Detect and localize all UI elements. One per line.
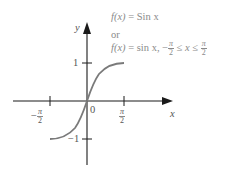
denominator: 2 (201, 49, 207, 57)
denominator: 2 (37, 117, 43, 125)
origin-label: 0 (90, 105, 95, 116)
fx-label: f(x) (111, 42, 126, 53)
sin-restricted-label: sin x, (137, 42, 160, 53)
y-axis-label: y (75, 23, 80, 34)
y-axis-arrow-icon (83, 22, 91, 34)
denominator: 2 (168, 49, 174, 57)
equals-sign: = (128, 42, 134, 53)
sine-graph (0, 0, 240, 172)
fx-label: f(x) (111, 11, 126, 22)
tick-label-x-neg-half-pi: −π2 (31, 108, 43, 125)
le-sign: ≤ (177, 42, 183, 53)
tick-label-y-1: 1 (73, 58, 78, 69)
or-label: or (111, 30, 120, 41)
equals-sign: = (128, 11, 134, 22)
function-definition-line1: f(x) = Sin x (111, 12, 159, 23)
function-definition-line2: f(x) = sin x, −π2 ≤ x ≤ π2 (111, 40, 207, 57)
x-var: x (185, 42, 190, 53)
tick-label-x-half-pi: π2 (119, 108, 125, 125)
x-axis-arrow-icon (162, 97, 173, 105)
fraction-pi-over-2: π2 (37, 108, 43, 125)
fraction-pi-over-2: π2 (119, 108, 125, 125)
le-sign: ≤ (192, 42, 198, 53)
x-axis-label: x (170, 109, 175, 120)
fraction-pi-over-2: π2 (201, 40, 207, 57)
sin-capital-label: Sin x (137, 11, 159, 22)
tick-label-y-neg-1: −1 (68, 134, 79, 145)
fraction-pi-over-2: π2 (168, 40, 174, 57)
denominator: 2 (119, 117, 125, 125)
